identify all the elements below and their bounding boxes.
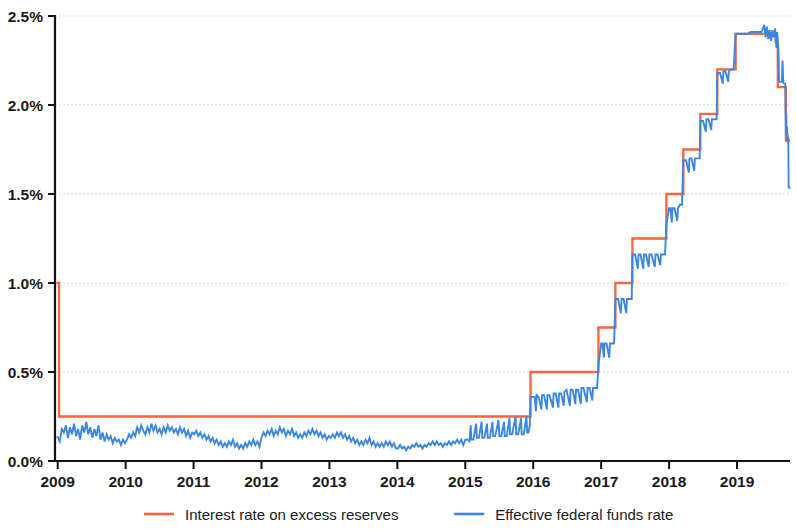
y-axis xyxy=(48,15,55,461)
x-tick-label: 2012 xyxy=(244,473,278,490)
x-tick-label: 2013 xyxy=(312,473,347,490)
y-tick-label: 2.5% xyxy=(8,8,44,25)
y-tick-label: 1.0% xyxy=(8,275,44,292)
chart-container: 0.0%0.5%1.0%1.5%2.0%2.5% 200920102011201… xyxy=(0,0,796,530)
y-tick-label: 0.0% xyxy=(8,453,44,470)
x-axis xyxy=(55,461,790,469)
x-tick-label: 2019 xyxy=(720,473,755,490)
x-tick-label: 2015 xyxy=(448,473,483,490)
legend-label: Interest rate on excess reserves xyxy=(185,506,398,523)
series-line xyxy=(57,25,790,450)
x-tick-label: 2014 xyxy=(380,473,415,490)
x-tick-label: 2009 xyxy=(40,473,75,490)
y-tick-label: 0.5% xyxy=(8,364,44,381)
x-tick-label: 2018 xyxy=(652,473,687,490)
y-tick-label: 1.5% xyxy=(8,186,44,203)
x-tick-label: 2010 xyxy=(108,473,142,490)
series-lines xyxy=(56,25,790,450)
legend-label: Effective federal funds rate xyxy=(495,506,673,523)
line-chart: 0.0%0.5%1.0%1.5%2.0%2.5% 200920102011201… xyxy=(0,0,796,530)
y-tick-label: 2.0% xyxy=(8,97,44,114)
x-tick-label: 2011 xyxy=(177,473,211,490)
x-tick-label: 2017 xyxy=(584,473,618,490)
y-axis-tick-labels: 0.0%0.5%1.0%1.5%2.0%2.5% xyxy=(8,8,44,470)
x-tick-label: 2016 xyxy=(516,473,551,490)
chart-legend: Interest rate on excess reservesEffectiv… xyxy=(144,506,673,523)
x-axis-tick-labels: 2009201020112012201320142015201620172018… xyxy=(40,473,754,490)
series-line xyxy=(56,34,790,417)
